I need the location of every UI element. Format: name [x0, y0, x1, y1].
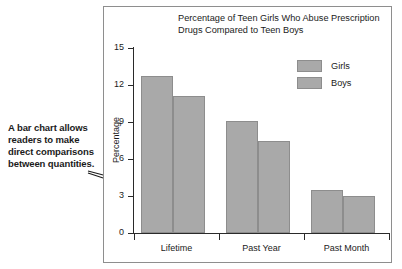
x-tick — [219, 234, 220, 240]
bar-girls-past-year — [226, 121, 258, 233]
y-tick-label: 12 — [114, 79, 124, 89]
bar-boys-past-month — [343, 196, 375, 233]
chart-legend: GirlsBoys — [297, 57, 351, 91]
bar-girls-past-month — [311, 190, 343, 233]
bar-boys-past-year — [258, 141, 290, 234]
y-tick-label: 9 — [119, 116, 124, 126]
y-tick-label: 0 — [119, 227, 124, 237]
legend-label: Boys — [331, 78, 351, 88]
bar-boys-lifetime — [173, 96, 205, 233]
legend-swatch-girls — [297, 60, 322, 72]
x-axis-line — [133, 233, 390, 234]
legend-label: Girls — [331, 61, 350, 71]
y-tick-label: 3 — [119, 190, 124, 200]
y-tick-label: 15 — [114, 42, 124, 52]
legend-item-girls: Girls — [297, 57, 351, 74]
x-tick — [304, 234, 305, 240]
x-label-past-year: Past Year — [219, 243, 304, 253]
bar-girls-lifetime — [141, 76, 173, 233]
legend-item-boys: Boys — [297, 74, 351, 91]
y-tick-label: 6 — [119, 153, 124, 163]
x-label-past-month: Past Month — [304, 243, 389, 253]
chart-title: Percentage of Teen Girls Who Abuse Presc… — [178, 13, 390, 36]
x-label-lifetime: Lifetime — [134, 243, 219, 253]
x-tick — [134, 234, 135, 240]
x-tick — [389, 234, 390, 240]
legend-swatch-boys — [297, 77, 322, 89]
annotation-text: A bar chart allows readers to make direc… — [8, 122, 100, 170]
chart-panel: Percentage of Teen Girls Who Abuse Presc… — [103, 6, 392, 263]
y-axis-title: Percentage — [111, 95, 121, 185]
